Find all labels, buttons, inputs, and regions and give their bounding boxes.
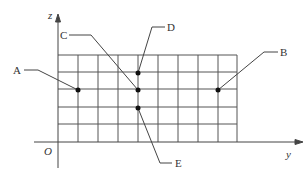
axes <box>34 14 303 168</box>
label-E: E <box>175 157 182 169</box>
leader-B <box>218 52 278 90</box>
leader-C <box>69 35 138 90</box>
label-C: C <box>60 29 67 41</box>
leader-E <box>138 108 172 163</box>
origin-label: O <box>44 145 52 157</box>
grid-diagram: z y O A C D B E <box>0 0 307 179</box>
y-axis-arrow-icon <box>295 140 303 145</box>
leader-A <box>24 70 78 90</box>
z-axis-arrow-icon <box>56 14 61 22</box>
label-D: D <box>167 21 175 33</box>
point-A <box>76 88 81 93</box>
y-axis-label: y <box>285 148 291 160</box>
leader-lines <box>24 27 278 163</box>
point-B <box>216 88 221 93</box>
point-E <box>136 106 141 111</box>
point-C <box>136 88 141 93</box>
label-A: A <box>13 64 21 76</box>
label-B: B <box>280 46 287 58</box>
z-axis-label: z <box>47 9 53 21</box>
points <box>76 71 221 111</box>
point-D <box>136 71 141 76</box>
leader-D <box>138 27 165 73</box>
grid <box>58 55 237 142</box>
